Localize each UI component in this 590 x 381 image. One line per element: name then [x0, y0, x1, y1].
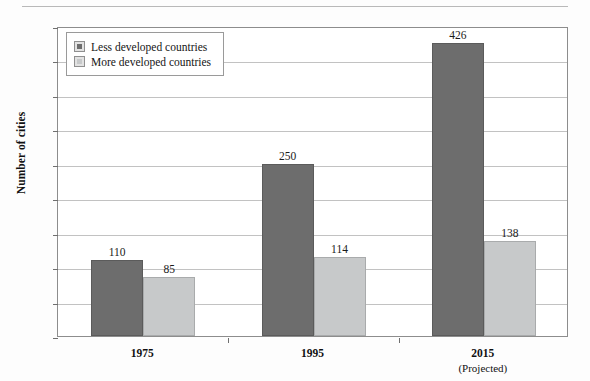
- bar-value-label: 426: [432, 30, 484, 42]
- legend-label-less-developed: Less developed countries: [91, 41, 207, 53]
- x-category-label-1975: 1975: [82, 346, 202, 360]
- bar-value-label: 114: [314, 244, 366, 256]
- gridline: [58, 131, 567, 132]
- bar-1975-more-developed: [143, 277, 195, 336]
- y-tick-mark: [53, 97, 58, 98]
- x-category-year: 1995: [301, 347, 324, 359]
- legend-swatch-icon-dark: [75, 42, 84, 51]
- x-category-year: 1975: [131, 347, 154, 359]
- legend-label-more-developed: More developed countries: [91, 56, 211, 68]
- y-tick-mark: [53, 166, 58, 167]
- x-tick-mark: [228, 338, 229, 343]
- x-category-year: 2015: [471, 347, 494, 359]
- chart-legend: Less developed countries More developed …: [66, 32, 224, 76]
- bar-value-label: 110: [91, 247, 143, 259]
- y-tick-mark: [53, 338, 58, 339]
- y-tick-mark: [53, 304, 58, 305]
- x-category-label-2015: 2015(Projected): [423, 346, 543, 376]
- y-tick-mark: [53, 269, 58, 270]
- x-category-label-1995: 1995: [253, 346, 373, 360]
- x-tick-mark: [399, 338, 400, 343]
- gridline: [58, 97, 567, 98]
- bar-1975-less-developed: [91, 260, 143, 336]
- bar-1995-less-developed: [262, 164, 314, 336]
- chart-page: Number of cities 05010015020025030035040…: [0, 0, 590, 381]
- y-tick-mark: [53, 131, 58, 132]
- y-tick-mark: [53, 235, 58, 236]
- bar-2015-more-developed: [484, 241, 536, 336]
- legend-swatch-icon-light: [75, 57, 84, 66]
- page-separator-rule: [22, 6, 568, 7]
- legend-item-less-developed: Less developed countries: [75, 39, 211, 54]
- bar-1995-more-developed: [314, 257, 366, 336]
- y-tick-mark: [53, 200, 58, 201]
- y-tick-mark: [53, 62, 58, 63]
- y-axis-title: Number of cities: [15, 93, 27, 213]
- bar-value-label: 250: [262, 151, 314, 163]
- y-tick-mark: [53, 28, 58, 29]
- bar-2015-less-developed: [432, 43, 484, 336]
- legend-item-more-developed: More developed countries: [75, 54, 211, 69]
- bar-value-label: 138: [484, 228, 536, 240]
- x-category-sublabel: (Projected): [423, 362, 543, 376]
- bar-value-label: 85: [143, 264, 195, 276]
